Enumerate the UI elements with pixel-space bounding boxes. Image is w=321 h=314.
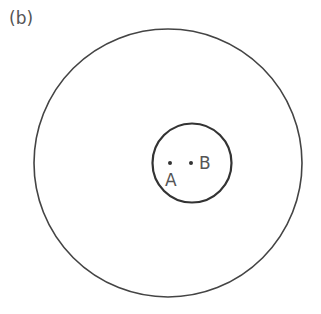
point-a-label: A [165,172,177,189]
diagram-canvas [0,0,321,314]
point-b-label: B [199,155,211,172]
point-b-dot [189,161,193,165]
point-a-dot [168,161,172,165]
